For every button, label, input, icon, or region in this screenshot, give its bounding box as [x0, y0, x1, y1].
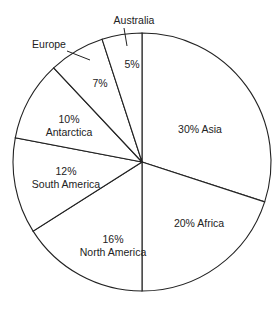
slice-label-europe: 7%: [92, 77, 107, 89]
pie-chart: 30% Asia20% Africa16%North America12%Sou…: [0, 0, 280, 314]
slice-label-asia: 30% Asia: [178, 123, 222, 135]
callout-label-europe: Europe: [32, 38, 66, 50]
slice-label-africa: 20% Africa: [174, 217, 224, 229]
callout-label-australia: Australia: [114, 14, 155, 26]
slice-label-australia: 5%: [124, 58, 139, 70]
